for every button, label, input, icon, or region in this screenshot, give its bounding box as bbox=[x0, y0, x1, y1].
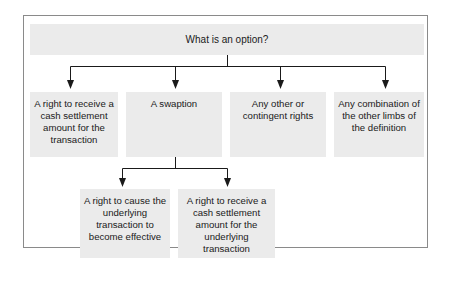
connector-lines bbox=[0, 0, 452, 286]
arrow-down-icon bbox=[67, 80, 74, 89]
arrow-down-icon bbox=[224, 178, 231, 187]
arrow-down-icon bbox=[119, 178, 126, 187]
arrow-down-icon bbox=[382, 80, 389, 89]
arrow-down-icon bbox=[172, 80, 179, 89]
arrow-down-icon bbox=[277, 80, 284, 89]
